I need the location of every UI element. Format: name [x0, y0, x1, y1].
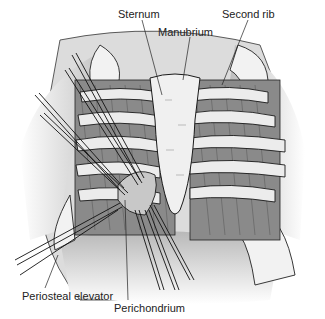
label-periosteal-elevator: Periosteal elevator [22, 290, 113, 302]
label-perichondrium: Perichondrium [114, 302, 185, 314]
chest-wall-drawing [0, 0, 325, 319]
label-manubrium: Manubrium [158, 26, 213, 38]
label-second-rib: Second rib [222, 8, 275, 20]
surgical-illustration: Sternum Manubrium Second rib Periosteal … [0, 0, 325, 319]
label-sternum: Sternum [118, 8, 160, 20]
